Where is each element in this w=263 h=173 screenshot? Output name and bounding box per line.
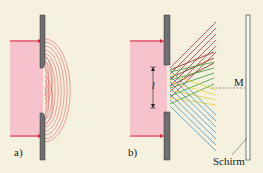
diffraction-figure: a) b) l M Schirm	[0, 0, 263, 173]
panel-a	[10, 15, 70, 160]
barrier-top-a	[40, 15, 45, 68]
slit-width-label: l	[152, 80, 155, 91]
panel-b-label: b)	[128, 146, 137, 158]
incident-beam-a	[10, 40, 43, 137]
incident-beam-b	[130, 40, 167, 137]
wavefronts	[45, 39, 70, 142]
panel-b	[130, 15, 250, 160]
barrier-bottom-a	[40, 113, 45, 160]
barrier-top-b	[164, 15, 170, 65]
barrier-bottom-b	[164, 112, 170, 160]
screen-label: Schirm	[213, 155, 245, 167]
panel-a-label: a)	[14, 146, 23, 158]
diffracted-rays	[170, 22, 216, 151]
center-marker-label: M	[234, 76, 244, 88]
